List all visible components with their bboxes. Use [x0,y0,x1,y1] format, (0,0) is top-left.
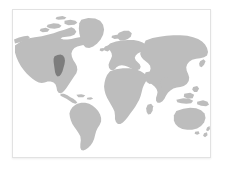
world-map-locator: World Map Eastern United States Grey wor… [0,0,229,173]
world-map-canvas[interactable] [13,10,210,157]
map-frame: World Map Eastern United States Grey wor… [12,9,211,158]
